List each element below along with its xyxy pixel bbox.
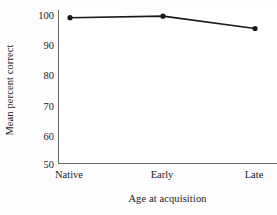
data-point xyxy=(160,14,165,19)
y-tick-label: 50 xyxy=(22,160,54,170)
chart-figure: Mean percent correct 100 90 80 70 60 50 … xyxy=(0,0,277,215)
y-tick-label: 70 xyxy=(22,102,54,112)
y-axis-title: Mean percent correct xyxy=(2,8,18,172)
y-tick-label: 80 xyxy=(22,71,54,81)
data-series xyxy=(59,10,277,164)
x-axis-title: Age at acquisition xyxy=(58,192,277,206)
x-tick-label-early: Early xyxy=(151,168,174,182)
data-point xyxy=(67,15,72,20)
y-tick-label: 60 xyxy=(22,132,54,142)
x-tick-label-native: Native xyxy=(55,168,83,182)
series-markers xyxy=(67,14,257,32)
y-tick-label: 100 xyxy=(22,11,54,21)
x-axis-tick-labels: Native Early Late xyxy=(58,168,277,184)
x-tick-label-late: Late xyxy=(245,168,264,182)
data-point xyxy=(252,26,257,31)
y-axis-tick-labels: 100 90 80 70 60 50 xyxy=(22,0,54,215)
plot-area xyxy=(58,10,277,164)
y-tick-label: 90 xyxy=(22,41,54,51)
